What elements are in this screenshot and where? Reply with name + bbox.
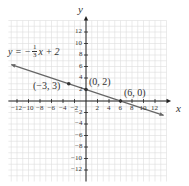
y-tick-label: 12 — [75, 27, 82, 35]
y-tick-label: −4 — [75, 119, 82, 127]
y-tick-label: −10 — [71, 154, 82, 162]
point-label-3: (6, 0) — [124, 87, 146, 98]
axis-y-label: y — [78, 3, 83, 15]
x-tick-label: 10 — [140, 104, 147, 112]
axes — [8, 16, 171, 182]
x-tick-label: −4 — [59, 104, 66, 112]
x-tick-label: −12 — [11, 104, 22, 112]
x-tick-label: −6 — [48, 104, 55, 112]
point-label-1: (−3, 3) — [33, 80, 60, 91]
graph-canvas — [0, 0, 189, 186]
x-tick-label: −10 — [23, 104, 34, 112]
y-tick-label: −2 — [75, 108, 82, 116]
y-tick-label: −12 — [71, 165, 82, 173]
axis-x-label: x — [176, 102, 181, 114]
x-tick-label: 6 — [119, 104, 123, 112]
y-tick-label: 4 — [79, 73, 83, 81]
point-label-2: (0, 2) — [89, 76, 111, 87]
x-tick-label: 4 — [107, 104, 111, 112]
x-tick-label: 12 — [151, 104, 158, 112]
x-tick-label: 8 — [130, 104, 134, 112]
y-tick-label: 10 — [75, 39, 82, 47]
equation-label: y = − 1 3 x + 2 — [8, 44, 60, 59]
y-tick-label: 2 — [79, 85, 83, 93]
y-tick-label: 8 — [79, 50, 83, 58]
y-tick-label: 6 — [79, 62, 83, 70]
y-tick-label: −8 — [75, 142, 82, 150]
x-tick-label: −8 — [36, 104, 43, 112]
x-tick-label: 2 — [96, 104, 100, 112]
y-tick-label: −6 — [75, 131, 82, 139]
